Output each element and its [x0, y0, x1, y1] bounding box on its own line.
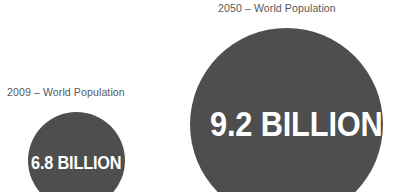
world-population-infographic: 2009 – World Population 6.8 BILLION 2050… [0, 0, 399, 192]
caption-2009: 2009 – World Population [7, 86, 125, 98]
value-label-2009: 6.8 BILLION [31, 152, 121, 174]
value-label-2050: 9.2 BILLION [210, 104, 383, 144]
caption-2050: 2050 – World Population [218, 2, 336, 14]
